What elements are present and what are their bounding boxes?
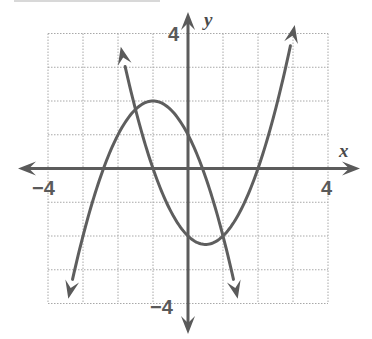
curves xyxy=(65,25,298,299)
y-min-tick-label: −4 xyxy=(150,296,174,318)
coordinate-plane-chart: −4 4 4 −4 y x xyxy=(0,0,372,339)
x-max-tick-label: 4 xyxy=(321,177,333,199)
x-min-tick-label: −4 xyxy=(32,177,56,199)
y-axis-label: y xyxy=(202,9,213,30)
curve-upward-parabola-end-arrow-icon xyxy=(284,25,298,44)
labels: −4 4 4 −4 y x xyxy=(32,9,349,318)
curve-downward-parabola-start-arrow-icon xyxy=(65,280,79,299)
y-max-tick-label: 4 xyxy=(168,23,180,45)
plot-svg: −4 4 4 −4 y x xyxy=(0,0,372,339)
axes xyxy=(18,12,360,334)
curve-upward-parabola-start-arrow-icon xyxy=(118,47,132,66)
curve-downward-parabola-end-arrow-icon xyxy=(227,280,241,299)
curve-upward-parabola xyxy=(125,46,290,245)
x-axis-label: x xyxy=(338,140,349,161)
